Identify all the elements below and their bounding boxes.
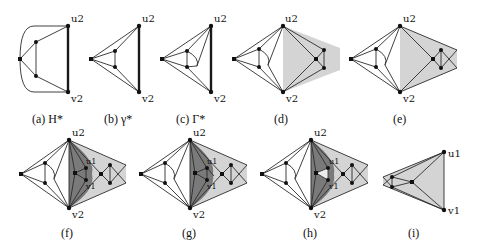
label-v2: v2 (285, 93, 298, 104)
label-v1: v1 (447, 205, 460, 216)
panel-h: u2 v2 u1 v1 (h) (260, 127, 368, 240)
label-u2: u2 (214, 13, 227, 24)
label-v1: v1 (85, 182, 96, 191)
panel-d: u2 v2 (d) (232, 13, 340, 126)
caption-g: (g) (182, 226, 196, 240)
label-u2: u2 (71, 13, 84, 24)
caption-e: (e) (393, 112, 406, 126)
label-u2: u2 (72, 127, 85, 138)
label-v2: v2 (402, 93, 415, 104)
label-u2: u2 (285, 13, 298, 24)
panel-a: u2 v2 (a) H* (18, 13, 84, 126)
label-v2: v2 (213, 93, 226, 104)
panel-e: u2 v2 (e) (349, 13, 457, 126)
label-u1: u1 (448, 148, 461, 159)
label-u2: u2 (142, 13, 155, 24)
label-u1: u1 (329, 157, 339, 166)
caption-f: (f) (61, 226, 73, 240)
figure-canvas: u2 v2 (a) H* u2 v2 (b) γ* (0, 0, 477, 245)
label-u2: u2 (314, 127, 327, 138)
panel-b: u2 v2 (b) γ* (89, 13, 155, 126)
label-v2: v2 (313, 209, 326, 220)
label-v2: v2 (192, 209, 205, 220)
label-u1: u1 (207, 157, 217, 166)
node (18, 57, 22, 61)
panel-c: u2 v2 (c) Γ* (160, 13, 227, 126)
caption-h: (h) (303, 226, 317, 240)
shaded-region (283, 26, 340, 92)
label-u2: u2 (403, 13, 416, 24)
caption-c: (c) Γ* (176, 112, 205, 126)
panel-i: u1 v1 (i) (383, 148, 461, 240)
panel-g: u2 v2 u1 v1 (g) (139, 127, 247, 240)
caption-a: (a) H* (32, 112, 63, 126)
label-v1: v1 (328, 182, 339, 191)
label-u1: u1 (86, 157, 96, 166)
caption-b: (b) γ* (104, 112, 132, 126)
label-v2: v2 (70, 93, 83, 104)
caption-d: (d) (274, 112, 288, 126)
label-v1: v1 (206, 182, 217, 191)
label-u2: u2 (193, 127, 206, 138)
outer-arc-edge (20, 26, 68, 92)
panel-f: u2 v2 u1 v1 (f) (19, 127, 126, 240)
caption-i: (i) (408, 226, 419, 240)
label-v2: v2 (71, 209, 84, 220)
label-v2: v2 (141, 93, 154, 104)
